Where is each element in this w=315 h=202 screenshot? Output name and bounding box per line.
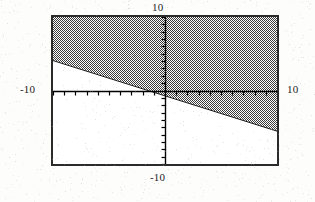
y-axis-max-label: 10 xyxy=(152,2,163,13)
y-axis-min-label: -10 xyxy=(150,172,165,183)
x-axis-max-label: 10 xyxy=(287,84,298,95)
plot-canvas xyxy=(53,17,277,164)
x-axis-min-label: -10 xyxy=(20,84,35,95)
plot-frame xyxy=(51,15,279,166)
plot-figure: 10 -10 -10 10 xyxy=(0,0,315,202)
